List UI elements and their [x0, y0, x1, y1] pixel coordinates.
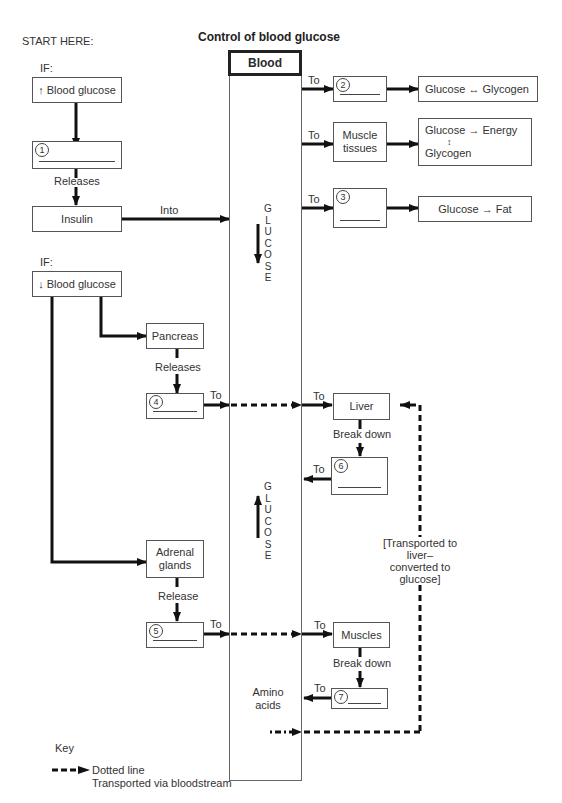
- to-label-muscles: To: [314, 619, 326, 631]
- into-label: Into: [160, 204, 178, 216]
- transport-note-line-1: [Transported to liver–: [370, 537, 470, 561]
- answer-line: [39, 161, 115, 162]
- number-1-icon: 1: [35, 143, 49, 157]
- to-label-4: To: [210, 389, 222, 401]
- to-label-7: To: [314, 682, 326, 694]
- amino-acids-label: Amino acids: [246, 686, 290, 712]
- transport-note-line-3: glucose]: [370, 573, 470, 585]
- to-label-3: To: [308, 193, 320, 205]
- number-6-icon: 6: [334, 459, 348, 473]
- answer-line: [338, 487, 381, 488]
- to-label-muscle: To: [308, 129, 320, 141]
- blank-2[interactable]: 2: [333, 76, 387, 102]
- blank-1[interactable]: 1: [32, 141, 122, 169]
- start-here-label: START HERE:: [22, 35, 94, 47]
- muscle-break-down-label: Break down: [333, 657, 391, 669]
- adrenal-glands-box: Adrenal glands: [146, 540, 204, 578]
- glucose-fat-box: Glucose → Fat: [418, 196, 532, 222]
- blank-3[interactable]: 3: [333, 188, 387, 228]
- answer-line: [153, 411, 197, 412]
- to-label-6: To: [313, 463, 325, 475]
- to-label-liver: To: [313, 390, 325, 402]
- to-label-2: To: [308, 74, 320, 86]
- blood-header: Blood: [228, 50, 302, 76]
- glucose-glycogen-box: Glucose ↔ Glycogen: [418, 76, 538, 102]
- glucose-energy-text: Glucose → Energy: [425, 124, 517, 137]
- number-2-icon: 2: [336, 78, 350, 92]
- insulin-box: Insulin: [32, 206, 122, 232]
- key-title: Key: [55, 742, 74, 754]
- transport-note: [Transported to liver– converted to gluc…: [370, 537, 470, 585]
- to-label-5: To: [210, 618, 222, 630]
- blank-6[interactable]: 6: [331, 457, 388, 495]
- number-3-icon: 3: [336, 190, 350, 204]
- glucose-up-label: GLUCOSE: [263, 481, 273, 562]
- double-arrow-icon: ↕: [425, 137, 452, 147]
- answer-line: [348, 703, 381, 704]
- number-4-icon: 4: [149, 395, 163, 409]
- answer-line: [340, 94, 380, 95]
- glucose-down-label: GLUCOSE: [263, 203, 273, 284]
- adrenal-release-label: Release: [158, 590, 198, 602]
- glucose-energy-box: Glucose → Energy ↕ Glycogen: [418, 118, 532, 166]
- high-blood-glucose-box: ↑ Blood glucose: [32, 77, 122, 103]
- diagram-title: Control of blood glucose: [198, 30, 340, 44]
- glycogen-text: Glycogen: [425, 147, 471, 160]
- low-blood-glucose-box: ↓ Blood glucose: [32, 271, 122, 297]
- answer-line: [340, 220, 380, 221]
- number-7-icon: 7: [334, 690, 348, 704]
- pancreas-box: Pancreas: [146, 323, 204, 349]
- liver-box: Liver: [333, 393, 390, 420]
- blood-column: [229, 76, 302, 781]
- liver-break-down-label: Break down: [333, 428, 391, 440]
- blank-5[interactable]: 5: [146, 622, 204, 648]
- if-label-low: IF:: [40, 256, 53, 268]
- transport-note-line-2: converted to: [370, 561, 470, 573]
- blank-7[interactable]: 7: [331, 688, 388, 709]
- blank-4[interactable]: 4: [146, 393, 204, 419]
- releases-label: Releases: [54, 175, 100, 187]
- if-label-high: IF:: [40, 62, 53, 74]
- number-5-icon: 5: [149, 624, 163, 638]
- key-line-2: Transported via bloodstream: [92, 777, 232, 789]
- pancreas-releases-label: Releases: [155, 361, 201, 373]
- answer-line: [153, 640, 197, 641]
- muscle-tissues-box: Muscle tissues: [333, 122, 387, 162]
- muscles-box: Muscles: [333, 622, 390, 648]
- key-line-1: Dotted line: [92, 764, 145, 776]
